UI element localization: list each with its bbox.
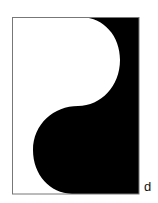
black-region	[33, 17, 139, 194]
s-curve-figure	[0, 0, 158, 203]
panel-label: d	[144, 180, 151, 193]
